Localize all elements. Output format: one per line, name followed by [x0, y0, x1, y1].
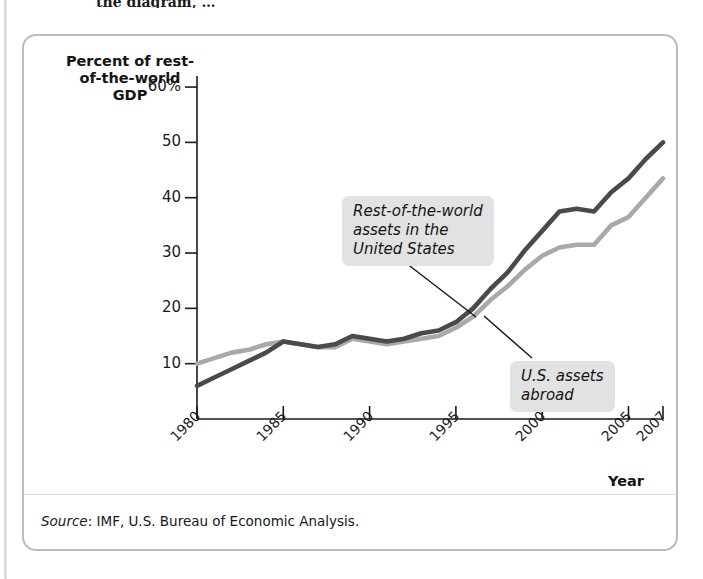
leader-line-row — [406, 263, 476, 317]
y-axis-tick-label: 50 — [121, 132, 181, 150]
figure-container: Percent of rest-of-the-world GDP Year 60… — [22, 34, 678, 551]
y-axis-tick-label: 60% — [121, 77, 181, 95]
source-divider — [25, 494, 677, 495]
annotation-us-assets-abroad: U.S. assets abroad — [510, 361, 615, 412]
y-axis-tick-label: 40 — [121, 188, 181, 206]
source-label: Source — [41, 513, 88, 529]
line-chart-plot — [24, 36, 680, 553]
page-edge-shadow — [4, 0, 7, 579]
source-text: : IMF, U.S. Bureau of Economic Analysis. — [88, 513, 360, 529]
source-note: Source: IMF, U.S. Bureau of Economic Ana… — [41, 513, 359, 529]
leader-line-us — [484, 316, 532, 358]
y-axis-tick-label: 30 — [121, 243, 181, 261]
y-axis-tick-label: 20 — [121, 298, 181, 316]
annotation-rest-of-world-assets: Rest-of-the-world assets in the United S… — [342, 196, 494, 266]
y-axis-ticks — [185, 87, 197, 364]
page-top-text: the diagram, … — [96, 0, 566, 8]
y-axis-tick-label: 10 — [121, 354, 181, 372]
